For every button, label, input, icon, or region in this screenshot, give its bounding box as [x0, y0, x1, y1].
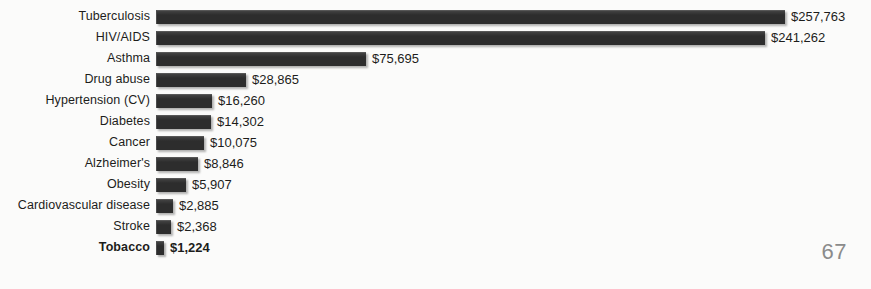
- value-label: $2,885: [179, 199, 219, 212]
- bar: [156, 10, 785, 24]
- bar-container: $14,302: [156, 114, 264, 130]
- horizontal-bar-chart: Tuberculosis$257,763HIV/AIDS$241,262Asth…: [0, 0, 871, 289]
- bar-container: $75,695: [156, 51, 419, 67]
- category-label: Cancer: [0, 136, 150, 149]
- category-label: Diabetes: [0, 115, 150, 128]
- chart-row: Obesity$5,907: [0, 174, 871, 195]
- category-label: Alzheimer's: [0, 157, 150, 170]
- bar: [156, 220, 171, 234]
- value-label: $75,695: [372, 52, 419, 65]
- bar: [156, 178, 186, 192]
- bar: [156, 94, 212, 108]
- bar: [156, 241, 164, 255]
- category-label: HIV/AIDS: [0, 31, 150, 44]
- chart-row: Asthma$75,695: [0, 48, 871, 69]
- chart-row: Drug abuse$28,865: [0, 69, 871, 90]
- bar-container: $8,846: [156, 156, 244, 172]
- value-label: $241,262: [771, 31, 825, 44]
- category-label: Drug abuse: [0, 73, 150, 86]
- bar: [156, 52, 366, 66]
- bar-container: $2,885: [156, 198, 219, 214]
- chart-row: Cardiovascular disease$2,885: [0, 195, 871, 216]
- chart-row: Stroke$2,368: [0, 216, 871, 237]
- bar-container: $28,865: [156, 72, 299, 88]
- bar: [156, 31, 765, 45]
- value-label: $2,368: [177, 220, 217, 233]
- value-label: $1,224: [170, 241, 210, 254]
- chart-row: Tuberculosis$257,763: [0, 6, 871, 27]
- category-label: Obesity: [0, 178, 150, 191]
- category-label: Tuberculosis: [0, 10, 150, 23]
- bar-container: $257,763: [156, 9, 845, 25]
- value-label: $5,907: [192, 178, 232, 191]
- bar-container: $16,260: [156, 93, 265, 109]
- bar-container: $5,907: [156, 177, 232, 193]
- category-label: Asthma: [0, 52, 150, 65]
- chart-row: HIV/AIDS$241,262: [0, 27, 871, 48]
- value-label: $8,846: [204, 157, 244, 170]
- value-label: $16,260: [218, 94, 265, 107]
- chart-page: Tuberculosis$257,763HIV/AIDS$241,262Asth…: [0, 0, 871, 289]
- value-label: $257,763: [791, 10, 845, 23]
- chart-row: Cancer$10,075: [0, 132, 871, 153]
- bar-container: $10,075: [156, 135, 257, 151]
- category-label: Tobacco: [0, 241, 150, 254]
- value-label: $10,075: [210, 136, 257, 149]
- chart-row: Alzheimer's$8,846: [0, 153, 871, 174]
- bar: [156, 157, 198, 171]
- category-label: Hypertension (CV): [0, 94, 150, 107]
- bar: [156, 199, 173, 213]
- chart-row: Hypertension (CV)$16,260: [0, 90, 871, 111]
- bar: [156, 136, 204, 150]
- value-label: $14,302: [217, 115, 264, 128]
- bar: [156, 73, 246, 87]
- bar-container: $241,262: [156, 30, 825, 46]
- bar: [156, 115, 211, 129]
- bar-container: $2,368: [156, 219, 217, 235]
- page-number: 67: [822, 241, 847, 263]
- category-label: Cardiovascular disease: [0, 199, 150, 212]
- bar-container: $1,224: [156, 240, 210, 256]
- chart-row: Tobacco$1,224: [0, 237, 871, 258]
- category-label: Stroke: [0, 220, 150, 233]
- value-label: $28,865: [252, 73, 299, 86]
- chart-row: Diabetes$14,302: [0, 111, 871, 132]
